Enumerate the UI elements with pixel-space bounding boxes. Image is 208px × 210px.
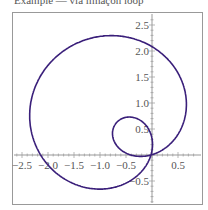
x-tick-label: −1.5: [64, 159, 84, 171]
y-tick-label: 2.0: [135, 45, 149, 57]
y-tick-label: 0.5: [135, 123, 149, 135]
parametric-plot: −2.5−2.0−1.5−1.0−0.50.50.51.01.52.02.5−0…: [0, 0, 208, 210]
y-tick-label: 1.5: [135, 71, 149, 83]
x-tick-label: −2.5: [12, 159, 32, 171]
x-tick-label: 0.5: [171, 159, 185, 171]
y-tick-label: 2.5: [135, 19, 149, 31]
x-tick-label: −1.0: [90, 159, 110, 171]
y-tick-label: 1.0: [135, 97, 149, 109]
x-tick-label: −0.5: [116, 159, 136, 171]
y-tick-label: −0.5: [129, 175, 149, 187]
